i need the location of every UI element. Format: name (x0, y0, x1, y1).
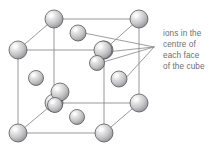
face-ion-bottom-body (70, 110, 85, 125)
corner-ion-back-top-left-body (45, 10, 63, 28)
corner-ion-front-bottom-left-body (9, 124, 27, 142)
face-ion-left (29, 71, 44, 86)
corner-ion-front-bottom-right (95, 124, 113, 142)
corner-ion-front-bottom-right-body (95, 124, 113, 142)
face-ion-right-body (111, 71, 127, 87)
corner-ion-back-top-right (130, 10, 148, 28)
callout-line-2: centre of (163, 40, 196, 49)
callout-line-3: each face (163, 51, 200, 60)
corner-ion-front-top-left (9, 41, 27, 59)
corner-ion-front-bottom-left (9, 124, 27, 142)
callout-line-4: of the cube (163, 62, 205, 71)
face-ion-top (70, 25, 86, 41)
face-centre-ions-callout: ions in the centre of each face of the c… (163, 29, 205, 71)
corner-ion-back-bottom-right-body (130, 94, 148, 112)
corner-ion-back-top-left (45, 10, 63, 28)
face-ion-left-body (29, 71, 44, 86)
face-ion-bottom (70, 110, 85, 125)
face-ion-inner (48, 98, 63, 113)
lattice-diagram-canvas: ions in the centre of each face of the c… (0, 0, 218, 149)
fcc-lattice-figure: ions in the centre of each face of the c… (0, 0, 218, 149)
corner-ion-back-top-right-body (130, 10, 148, 28)
face-ion-centre-body (90, 56, 105, 71)
face-ion-centre (90, 56, 105, 71)
face-ion-right (111, 71, 127, 87)
corner-ion-front-top-left-body (9, 41, 27, 59)
face-ion-inner-body (48, 98, 63, 113)
callout-line-1: ions in the (163, 29, 202, 38)
face-ion-top-body (70, 25, 86, 41)
leader-line-to-top-face-centre-ion (84, 33, 154, 47)
corner-ion-back-bottom-right (130, 94, 148, 112)
